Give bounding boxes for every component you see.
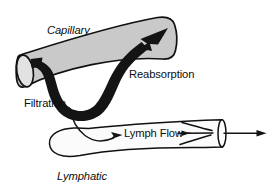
label-reabsorption: Reabsorption: [129, 68, 194, 80]
label-capillary: Capillary: [47, 24, 91, 36]
label-filtration: Filtration: [24, 97, 66, 109]
lymph-outflow-arrowhead: [257, 130, 267, 137]
capillary-lymphatic-diagram: Capillary Reabsorption Filtration Lymph …: [0, 0, 276, 194]
label-lymph-flow: Lymph Flow: [124, 127, 184, 139]
label-lymphatic: Lymphatic: [57, 170, 107, 182]
diagram-canvas: Capillary Reabsorption Filtration Lymph …: [0, 0, 276, 194]
lymph-outflow-arrow: [224, 130, 267, 137]
